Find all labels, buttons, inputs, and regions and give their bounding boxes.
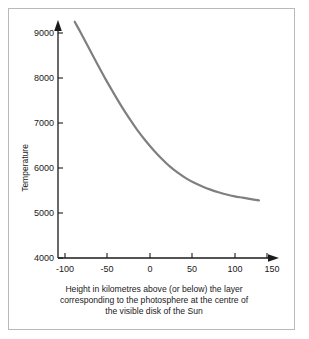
x-axis	[58, 254, 279, 262]
chart-caption: Height in kilometres above (or below) th…	[60, 284, 249, 316]
y-tick-label-5000: 5000	[34, 208, 54, 218]
caption-line-3: the visible disk of the Sun	[105, 306, 203, 316]
y-axis-arrow-icon	[54, 20, 62, 31]
x-tick-label-150: 150	[264, 264, 279, 274]
x-tick-label-0: 0	[147, 264, 152, 274]
x-tick-label-100: 100	[227, 264, 242, 274]
caption-line-1: Height in kilometres above (or below) th…	[65, 284, 242, 294]
x-tick-label-50: 50	[187, 264, 197, 274]
x-axis-arrow-icon	[268, 254, 279, 262]
temperature-curve	[75, 22, 259, 201]
caption-line-2: corresponding to the photosphere at the …	[60, 295, 249, 305]
y-tick-label-7000: 7000	[34, 118, 54, 128]
y-tick-label-6000: 6000	[34, 163, 54, 173]
y-tick-label-4000: 4000	[34, 253, 54, 263]
y-axis-ticks	[58, 33, 63, 258]
y-axis	[54, 20, 62, 258]
temperature-vs-height-chart: 4000 5000 6000 7000 8000 9000 -100 -50 0…	[0, 0, 309, 339]
figure-container: 4000 5000 6000 7000 8000 9000 -100 -50 0…	[0, 0, 309, 339]
y-tick-label-8000: 8000	[34, 73, 54, 83]
y-axis-tick-labels: 4000 5000 6000 7000 8000 9000	[34, 28, 54, 263]
x-tick-label-minus50: -50	[100, 264, 113, 274]
y-tick-label-9000: 9000	[34, 28, 54, 38]
x-tick-label-minus100: -100	[56, 264, 74, 274]
y-axis-title: Temperature	[20, 144, 30, 192]
x-axis-ticks	[65, 253, 267, 258]
x-axis-tick-labels: -100 -50 0 50 100 150	[56, 264, 280, 274]
